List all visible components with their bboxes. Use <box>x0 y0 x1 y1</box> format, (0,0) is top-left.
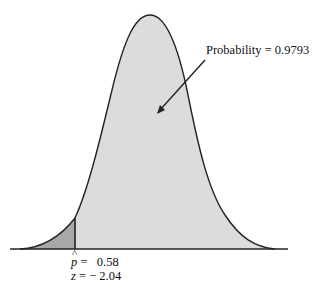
p-hat-label: p = 0.58 <box>71 255 119 270</box>
z-equals: = − <box>76 269 99 283</box>
left-tail-area <box>20 218 75 249</box>
z-value: 2.04 <box>99 269 121 283</box>
p-hat-value: 0.58 <box>97 255 119 269</box>
probability-annotation: Probability = 0.9793 <box>206 43 309 58</box>
p-hat-symbol: p <box>71 255 77 270</box>
p-hat-equals: = <box>77 255 97 269</box>
z-label: z = − 2.04 <box>71 269 121 284</box>
